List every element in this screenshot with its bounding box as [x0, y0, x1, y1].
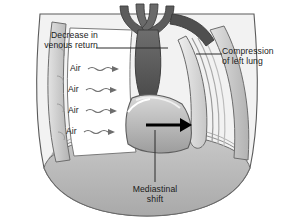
label-compression-left-lung: Compression of left lung	[222, 46, 294, 66]
label-air-4: Air	[66, 126, 77, 136]
label-air-3: Air	[68, 105, 79, 115]
label-mediastinal-shift: Mediastinal shift	[112, 184, 198, 204]
label-air-1: Air	[70, 63, 81, 73]
label-air-2: Air	[68, 84, 79, 94]
label-decrease-venous-return: Decrease in venous return	[12, 30, 98, 50]
trachea	[135, 30, 161, 96]
pneumothorax-diagram: Decrease in venous return Compression of…	[0, 0, 294, 221]
